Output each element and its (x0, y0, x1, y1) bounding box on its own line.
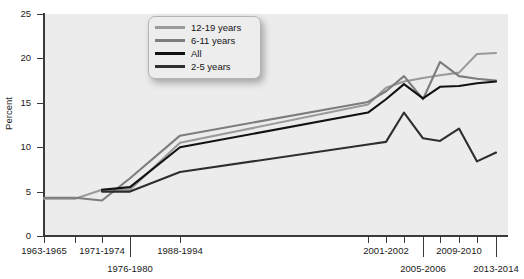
legend-item[interactable]: All (155, 47, 254, 60)
chart-container: Percent 0510152025 1963-19651971-1974197… (0, 0, 524, 279)
legend-label: 6-11 years (191, 35, 235, 46)
chart-lines (0, 0, 524, 279)
legend-item[interactable]: 2-5 years (155, 60, 254, 73)
legend-label: 12-19 years (191, 22, 241, 33)
legend-item[interactable]: 6-11 years (155, 34, 254, 47)
chart-legend: 12-19 years6-11 yearsAll2-5 years (148, 16, 261, 79)
legend-label: All (191, 48, 202, 59)
series-line (102, 81, 496, 189)
legend-swatch-icon (155, 26, 185, 29)
legend-swatch-icon (155, 52, 185, 55)
series-line (44, 53, 496, 199)
legend-item[interactable]: 12-19 years (155, 21, 254, 34)
legend-label: 2-5 years (191, 61, 231, 72)
legend-swatch-icon (155, 65, 185, 68)
legend-swatch-icon (155, 39, 185, 42)
